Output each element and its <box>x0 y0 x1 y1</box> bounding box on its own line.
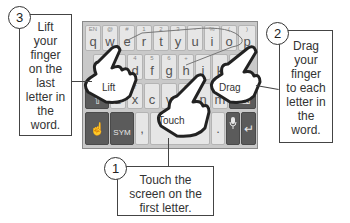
callout-step-3: Lift your finger on the last letter in t… <box>19 14 72 136</box>
step-1-badge: 1 <box>104 157 127 180</box>
step-3-badge: 3 <box>8 6 31 29</box>
touch-label: Touch <box>158 115 185 126</box>
lift-hand-icon <box>82 44 142 104</box>
step-2-badge: 2 <box>266 22 289 45</box>
leader-line-3 <box>72 81 92 82</box>
callout-step-1: Touch the screen on the first letter. <box>117 166 214 216</box>
lift-label: Lift <box>102 82 115 93</box>
callout-step-2: Drag your finger to each letter in the w… <box>279 30 333 143</box>
leader-line-1 <box>168 138 169 166</box>
touch-hand-icon <box>155 72 215 140</box>
drag-hand-icon <box>208 44 264 104</box>
drag-label: Drag <box>219 82 241 93</box>
